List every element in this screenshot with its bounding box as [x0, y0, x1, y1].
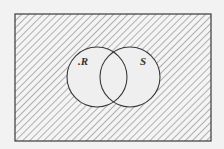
set-s-label: S: [140, 55, 146, 67]
venn-diagram: .R S: [0, 0, 224, 149]
set-r-label: .R: [78, 55, 88, 67]
